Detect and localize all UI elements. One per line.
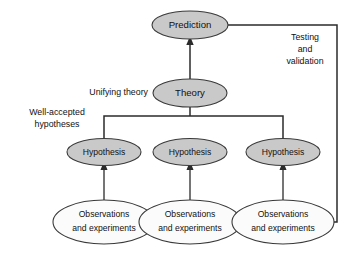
scientific-method-diagram: Prediction Theory Hypothesis Hypothesis … — [0, 0, 355, 254]
node-hypothesis-right[interactable]: Hypothesis — [246, 139, 320, 166]
observations-right-label-line1: Observations — [258, 209, 309, 219]
node-hypothesis-center[interactable]: Hypothesis — [153, 139, 227, 166]
observations-left-label-line1: Observations — [79, 209, 130, 219]
node-theory[interactable]: Theory — [153, 79, 227, 107]
node-observations-right[interactable]: Observations and experiments — [232, 200, 334, 244]
theory-to-prediction-connector — [186, 36, 193, 85]
theory-label: Theory — [175, 87, 205, 98]
hypothesis-left-label: Hypothesis — [83, 147, 126, 157]
observations-to-hypothesis-connectors — [101, 161, 287, 205]
observations-right-label-line2: and experiments — [251, 223, 315, 233]
node-prediction[interactable]: Prediction — [152, 11, 228, 39]
well-accepted-line1: Well-accepted — [29, 107, 85, 117]
observations-center-label-line1: Observations — [165, 209, 216, 219]
hypothesis-right-label: Hypothesis — [262, 147, 305, 157]
unifying-theory-label: Unifying theory — [89, 87, 148, 97]
testing-line2: and — [298, 44, 313, 54]
node-observations-center[interactable]: Observations and experiments — [139, 200, 241, 244]
prediction-label: Prediction — [169, 19, 212, 30]
diagram-canvas: Prediction Theory Hypothesis Hypothesis … — [0, 0, 355, 254]
observations-left-label-line2: and experiments — [72, 223, 136, 233]
testing-line3: validation — [286, 56, 323, 66]
observations-center-label-line2: and experiments — [158, 223, 222, 233]
well-accepted-line2: hypotheses — [35, 119, 81, 129]
testing-line1: Testing — [291, 32, 319, 42]
observations-right-ellipse — [232, 200, 334, 244]
testing-and-validation-label: Testing and validation — [286, 32, 323, 66]
well-accepted-hypotheses-label: Well-accepted hypotheses — [29, 107, 85, 129]
node-hypothesis-left[interactable]: Hypothesis — [67, 139, 141, 166]
observations-center-ellipse — [139, 200, 241, 244]
hypothesis-center-label: Hypothesis — [169, 147, 212, 157]
